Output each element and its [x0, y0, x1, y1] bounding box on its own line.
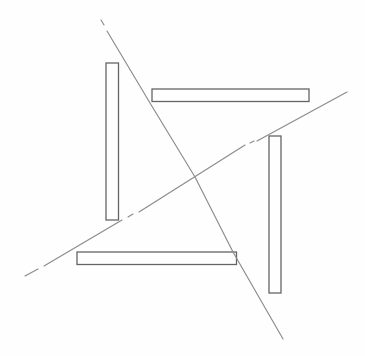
scanned-figure-page: [0, 0, 365, 356]
diagonal-line-shallow-segment: [250, 141, 254, 143]
diagonal-line-shallow: [25, 92, 347, 276]
diagonal-line-shallow-segment: [139, 145, 245, 212]
diagonal-line-steep-segment: [101, 20, 104, 25]
diagonal-line-steep-segment: [107, 31, 283, 339]
diagonal-line-shallow-segment: [257, 92, 347, 141]
diagonal-line-shallow-segment: [128, 214, 133, 217]
pinwheel-bars-figure: [0, 0, 365, 356]
bar-left-vertical: [106, 63, 119, 220]
diagonal-line-steep: [101, 20, 283, 339]
bar-top-horizontal: [152, 89, 309, 102]
bar-right-vertical: [269, 136, 281, 293]
diagonal-line-shallow-segment: [25, 269, 38, 276]
diagonal-line-shallow-segment: [44, 220, 122, 266]
bar-bottom-horizontal: [77, 252, 237, 265]
